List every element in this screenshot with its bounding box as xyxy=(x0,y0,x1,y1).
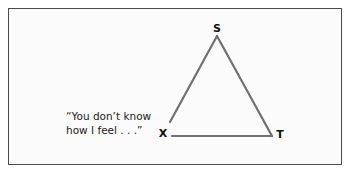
vertex-label-s: S xyxy=(213,22,221,35)
quote-line-2: how I feel . . .” xyxy=(66,124,142,136)
triangle-diagram xyxy=(0,0,352,176)
edge-s-x xyxy=(170,36,217,122)
quote-text: “You don’t know how I feel . . .” xyxy=(66,109,151,137)
quote-line-1: “You don’t know xyxy=(66,110,151,122)
vertex-label-x: X xyxy=(159,127,167,140)
vertex-label-t: T xyxy=(276,128,284,141)
edge-s-t xyxy=(217,36,272,136)
